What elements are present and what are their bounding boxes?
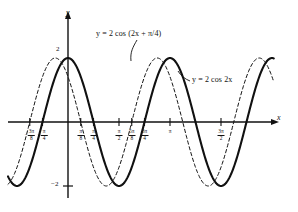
leader-line-shifted [131, 40, 137, 61]
x-tick-label-pi/8: π8 [77, 129, 84, 141]
x-tick-label-3pi/4: 3π4 [141, 129, 148, 141]
x-tick-label-pi/2: π2 [116, 129, 123, 141]
annotation-base-curve: y = 2 cos 2x [192, 75, 232, 84]
x-tick-label--pi/4: −π4 [37, 129, 47, 141]
cosine-graph-figure: y x 2 −2 y = 2 cos (2x + π/4) y = 2 cos … [0, 0, 298, 212]
x-axis-label: x [277, 113, 281, 122]
y-tick-label-minus-2: −2 [51, 180, 58, 188]
x-tick-label-5pi/8: 5π8 [128, 129, 135, 141]
x-tick-label-pi/4: π4 [90, 129, 97, 141]
x-tick-label--3pi/8: −3π8 [25, 129, 35, 141]
x-tick-label-pi: π [168, 129, 173, 134]
y-axis-label: y [66, 8, 70, 17]
x-tick-label-3pi/2: 3π2 [218, 129, 225, 141]
annotation-shifted-curve: y = 2 cos (2x + π/4) [96, 29, 161, 38]
y-tick-label-2: 2 [56, 45, 60, 53]
